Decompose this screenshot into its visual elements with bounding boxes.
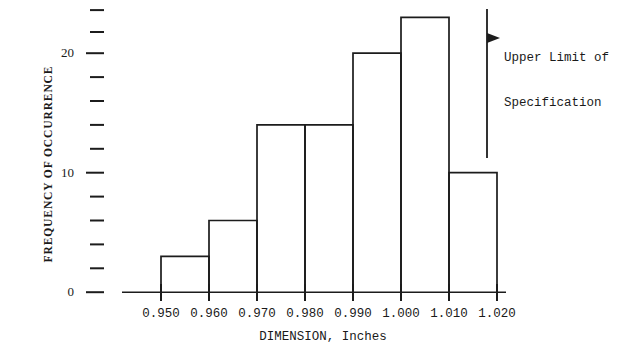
x-tick-label-1000: 1.000 [375, 307, 427, 321]
y-tick-label-10: 10 [40, 166, 74, 179]
x-tick-label-0950: 0.950 [135, 307, 187, 321]
left-arrow-icon [487, 33, 500, 43]
histogram-bar-6 [449, 173, 497, 293]
histogram-bars [161, 17, 497, 292]
histogram-bar-5 [401, 17, 449, 292]
histogram-bar-4 [353, 53, 401, 292]
x-axis-title-text: DIMENSION, Inches [237, 330, 387, 344]
y-tick-label-0: 0 [40, 285, 74, 298]
y-axis-title: FREQUENCY OF OCCURRENCE [42, 54, 54, 274]
y-axis-ticks [86, 10, 104, 292]
upper-limit-annotation-line2: Specification [504, 96, 609, 111]
x-tick-label-1010: 1.010 [423, 307, 475, 321]
x-tick-label-0960: 0.960 [183, 307, 235, 321]
histogram-bar-2 [257, 125, 305, 292]
upper-limit-marker [487, 9, 500, 158]
x-tick-label-0980: 0.980 [279, 307, 331, 321]
upper-limit-annotation: Upper Limit of Specification [504, 21, 609, 141]
x-tick-label-1020: 1.020 [471, 307, 523, 321]
histogram-bar-0 [161, 256, 209, 292]
histogram-bar-1 [209, 221, 257, 293]
histogram-bar-3 [305, 125, 353, 292]
y-tick-label-20: 20 [40, 46, 74, 59]
x-axis-title: DIMENSION, Inches [0, 330, 624, 344]
histogram-chart: FREQUENCY OF OCCURRENCE 20 10 0 0.950 0.… [0, 0, 624, 355]
x-tick-label-0990: 0.990 [327, 307, 379, 321]
upper-limit-annotation-line1: Upper Limit of [504, 51, 609, 66]
x-tick-label-0970: 0.970 [231, 307, 283, 321]
